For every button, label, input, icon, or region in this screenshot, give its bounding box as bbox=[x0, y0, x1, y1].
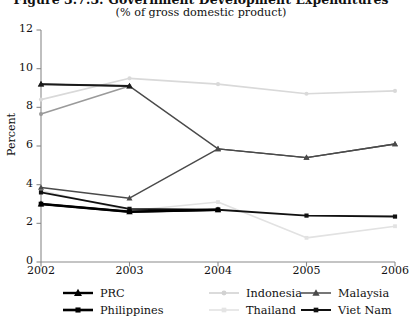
data-point-marker bbox=[39, 202, 44, 207]
legend-marker-square-icon bbox=[300, 303, 332, 317]
x-tick-label: 2006 bbox=[373, 264, 413, 277]
y-tick-label: 10 bbox=[11, 61, 33, 74]
legend-label: Malaysia bbox=[338, 287, 389, 300]
y-axis-label: Percent bbox=[5, 105, 18, 165]
x-tick-label: 2002 bbox=[19, 264, 63, 277]
legend-marker-triangle-icon bbox=[62, 286, 94, 300]
legend-label: PRC bbox=[100, 287, 125, 300]
legend-marker-square-icon bbox=[62, 303, 94, 317]
series-prc-upper bbox=[38, 81, 133, 89]
y-tick-label: 4 bbox=[11, 177, 33, 190]
series-line bbox=[41, 84, 130, 86]
data-point-marker bbox=[305, 236, 309, 240]
series-line bbox=[41, 190, 395, 237]
legend-label: Viet Nam bbox=[338, 304, 392, 317]
data-point-marker bbox=[75, 307, 80, 312]
legend-item-thailand[interactable]: Thailand bbox=[208, 302, 296, 317]
y-tick-label: 6 bbox=[11, 138, 33, 151]
x-tick-label: 2003 bbox=[108, 264, 152, 277]
series-line bbox=[41, 86, 130, 114]
data-point-marker bbox=[304, 214, 308, 218]
y-tick-label: 8 bbox=[11, 99, 33, 112]
data-point-marker bbox=[39, 190, 43, 194]
data-point-marker bbox=[39, 112, 43, 116]
legend-item-malaysia[interactable]: Malaysia bbox=[300, 285, 389, 301]
legend-marker-square-icon bbox=[208, 303, 240, 317]
chart-legend: PRCIndonesiaMalaysiaPhilippinesThailandV… bbox=[0, 284, 402, 317]
series-viet-nam bbox=[39, 190, 397, 218]
series-thailand bbox=[39, 189, 397, 240]
data-point-marker bbox=[216, 82, 220, 86]
legend-marker-circle-icon bbox=[208, 286, 240, 300]
series-line bbox=[41, 78, 395, 99]
legend-label: Thailand bbox=[246, 304, 296, 317]
data-point-marker bbox=[392, 141, 398, 146]
legend-marker-triangle-icon bbox=[300, 286, 332, 300]
y-tick-label: 12 bbox=[11, 22, 33, 35]
data-point-marker bbox=[216, 200, 220, 204]
data-point-marker bbox=[127, 209, 132, 214]
data-point-marker bbox=[393, 214, 397, 218]
x-tick-label: 2004 bbox=[196, 264, 240, 277]
legend-label: Indonesia bbox=[246, 287, 302, 300]
data-point-marker bbox=[393, 89, 397, 93]
legend-item-prc[interactable]: PRC bbox=[62, 285, 125, 301]
legend-item-philippines[interactable]: Philippines bbox=[62, 302, 164, 317]
plot-area: Percent 024681012 20022003200420052006 bbox=[0, 0, 402, 280]
legend-item-viet-nam[interactable]: Viet Nam bbox=[300, 302, 392, 317]
legend-item-indonesia[interactable]: Indonesia bbox=[208, 285, 302, 301]
x-tick-label: 2005 bbox=[285, 264, 329, 277]
data-point-marker bbox=[393, 224, 397, 228]
series-line bbox=[41, 192, 395, 216]
data-point-marker bbox=[222, 291, 227, 296]
data-point-marker bbox=[304, 92, 308, 96]
y-tick-label: 2 bbox=[11, 215, 33, 228]
data-point-marker bbox=[216, 207, 221, 212]
data-point-marker bbox=[39, 98, 43, 102]
data-point-marker bbox=[222, 308, 227, 313]
data-point-marker bbox=[314, 308, 319, 313]
legend-label: Philippines bbox=[100, 304, 164, 317]
line-chart-svg bbox=[0, 0, 402, 280]
data-point-marker bbox=[127, 76, 131, 80]
